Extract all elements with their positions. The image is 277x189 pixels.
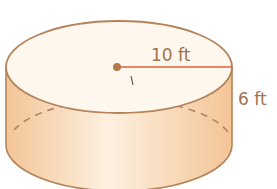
cylinder-diagram: 10 ft 6 ft (0, 0, 277, 189)
radius-label: 10 ft (151, 45, 191, 65)
height-label: 6 ft (238, 89, 267, 109)
center-point (113, 63, 121, 71)
